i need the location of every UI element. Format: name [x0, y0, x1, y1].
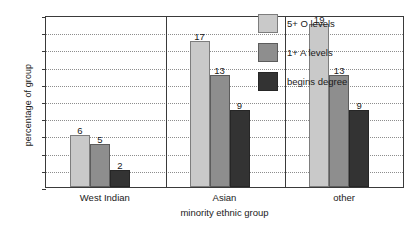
y-axis-tick-mark — [42, 103, 46, 104]
legend-swatch — [258, 14, 278, 33]
bar-value-label: 5 — [84, 135, 116, 145]
bar — [210, 75, 230, 187]
x-axis-category-label: Asian — [165, 192, 285, 203]
y-axis-tick-mark — [42, 120, 46, 121]
y-axis-tick-mark — [42, 172, 46, 173]
x-axis-category-label: other — [284, 192, 404, 203]
legend-swatch — [258, 43, 278, 62]
bar-value-label: 17 — [184, 32, 216, 42]
y-axis-tick-mark — [42, 189, 46, 190]
bar-chart: percentage of group 6521713919139 024681… — [0, 0, 416, 229]
x-axis-category-label: West Indian — [45, 192, 165, 203]
x-axis-title: minority ethnic group — [45, 207, 404, 218]
legend-label: 5+ O levels — [287, 18, 335, 29]
legend-swatch — [258, 72, 278, 91]
y-axis-tick-mark — [42, 86, 46, 87]
chart-legend: 5+ O levels1+ A levelsbegins degree — [258, 10, 368, 97]
y-axis-tick-mark — [42, 51, 46, 52]
bar-value-label: 9 — [343, 101, 375, 111]
bar-value-label: 2 — [104, 161, 136, 171]
group-separator — [166, 17, 167, 187]
legend-item: 5+ O levels — [258, 10, 368, 36]
bar — [349, 110, 369, 187]
y-axis-tick-mark — [42, 137, 46, 138]
legend-item: begins degree — [258, 68, 368, 94]
bar — [110, 170, 130, 187]
legend-item: 1+ A levels — [258, 39, 368, 65]
bar-value-label: 9 — [224, 101, 256, 111]
legend-label: begins degree — [287, 76, 347, 87]
y-axis-tick-mark — [42, 69, 46, 70]
y-axis-tick-mark — [42, 17, 46, 18]
y-axis-tick-mark — [42, 155, 46, 156]
bar — [230, 110, 250, 187]
bar — [190, 41, 210, 187]
legend-label: 1+ A levels — [287, 47, 333, 58]
y-axis-title: percentage of group — [23, 25, 33, 185]
bar-value-label: 13 — [204, 66, 236, 76]
y-axis-tick-mark — [42, 34, 46, 35]
